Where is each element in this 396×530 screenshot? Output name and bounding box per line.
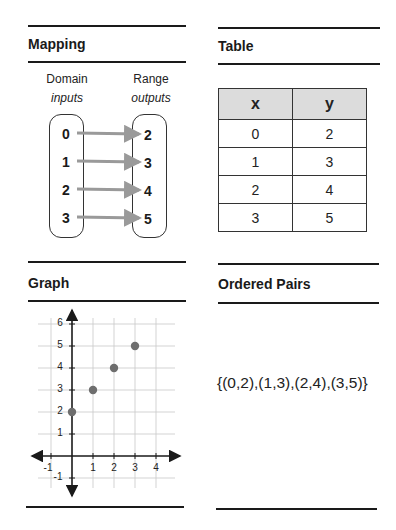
- table-cell: 3: [219, 204, 293, 232]
- mapping-arrows: [0, 0, 396, 530]
- table-cell: 4: [293, 176, 367, 204]
- graph-bottom-rule: [26, 506, 184, 508]
- graph-tick-marks: [51, 324, 156, 478]
- graph-header-rule: [28, 300, 186, 302]
- ordered-pairs-title: Ordered Pairs: [218, 276, 311, 292]
- x-tick-label: 4: [150, 462, 162, 473]
- y-tick-label: 3: [54, 383, 66, 394]
- table-row: 1 3: [219, 148, 367, 176]
- y-tick-label: 6: [54, 317, 66, 328]
- xy-table: x y 0 2 1 3 2 4 3 5: [218, 88, 367, 232]
- table-header-y: y: [293, 89, 367, 120]
- table-row: 0 2: [219, 120, 367, 148]
- table-cell: 0: [219, 120, 293, 148]
- data-point: [68, 408, 76, 416]
- ordered-pairs-text: {(0,2),(1,3),(2,4),(3,5)}: [217, 374, 368, 392]
- ordered-pairs-top-rule: [218, 263, 379, 265]
- table-cell: 2: [293, 120, 367, 148]
- table-cell: 1: [219, 148, 293, 176]
- table-title: Table: [218, 38, 254, 54]
- data-point: [89, 386, 97, 394]
- y-tick-label: 4: [54, 361, 66, 372]
- ordered-pairs-header-rule: [218, 302, 379, 304]
- table-cell: 5: [293, 204, 367, 232]
- x-tick-label: 1: [87, 462, 99, 473]
- table-header-rule: [218, 63, 380, 65]
- table-cell: 2: [219, 176, 293, 204]
- table-cell: 3: [293, 148, 367, 176]
- x-tick-label: 3: [129, 462, 141, 473]
- table-row: 3 5: [219, 204, 367, 232]
- graph-points: [68, 342, 139, 416]
- graph-title: Graph: [28, 275, 69, 291]
- y-tick-label: 2: [54, 405, 66, 416]
- table-header-x: x: [219, 89, 293, 120]
- y-tick-label: 5: [54, 339, 66, 350]
- data-point: [110, 364, 118, 372]
- x-tick-label: 2: [108, 462, 120, 473]
- y-tick-label: 1: [54, 427, 66, 438]
- table-row: 2 4: [219, 176, 367, 204]
- data-point: [131, 342, 139, 350]
- table-top-rule: [218, 27, 380, 29]
- ordered-pairs-bottom-rule: [216, 508, 377, 510]
- graph-top-rule: [28, 261, 186, 263]
- mapping-arrow-group: [77, 133, 139, 218]
- table-header-row: x y: [219, 89, 367, 120]
- x-tick-label: -1: [39, 462, 57, 473]
